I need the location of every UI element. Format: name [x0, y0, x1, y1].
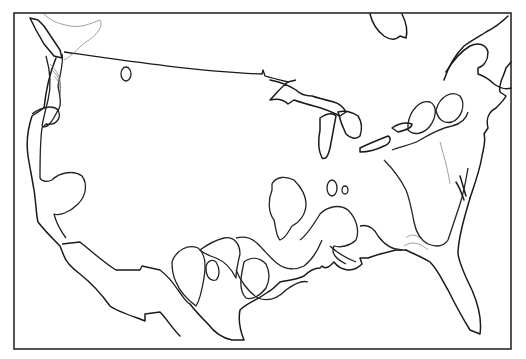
- mid-south-hachure: [236, 237, 304, 269]
- puget-sound-coast: [30, 18, 62, 58]
- mid-south-contour: [236, 237, 322, 269]
- hudson-bay-coast: [370, 14, 407, 39]
- texas-contour-hachure: [172, 247, 205, 278]
- west-coast: [27, 58, 180, 336]
- canada-border: [64, 52, 296, 82]
- lake-superior: [270, 80, 346, 116]
- florida-coast: [406, 198, 481, 334]
- east-coast: [470, 62, 511, 198]
- ozark-contour: [269, 177, 306, 240]
- ohio-valley-contour: [200, 207, 358, 278]
- louisiana-contour: [241, 258, 269, 298]
- california-hachure: [40, 128, 85, 204]
- lake-erie: [360, 136, 390, 152]
- northeast-contour-2: [436, 94, 463, 123]
- appalachian-contour: [384, 112, 468, 246]
- california-north-lobe: [32, 107, 85, 238]
- map-canvas: [0, 0, 526, 359]
- montana-isolated-contour: [121, 67, 131, 81]
- kentucky-isolated-contour: [327, 180, 337, 196]
- northeast-contour-1: [408, 102, 435, 134]
- texas-coast: [190, 250, 406, 340]
- map-frame: [14, 13, 511, 349]
- lake-michigan: [319, 114, 336, 159]
- gulf-central-contour: [236, 270, 308, 300]
- ozark-hachure: [272, 177, 306, 204]
- mexico-border: [62, 242, 190, 304]
- us-contour-map: [0, 0, 526, 359]
- kentucky-small-contour: [342, 186, 348, 194]
- texas-contour-loop: [172, 247, 205, 306]
- texas-inner-ellipse: [206, 260, 219, 280]
- canada-coast-north: [444, 16, 508, 80]
- southeast-contour: [330, 225, 402, 262]
- appalachian-inner: [404, 142, 450, 250]
